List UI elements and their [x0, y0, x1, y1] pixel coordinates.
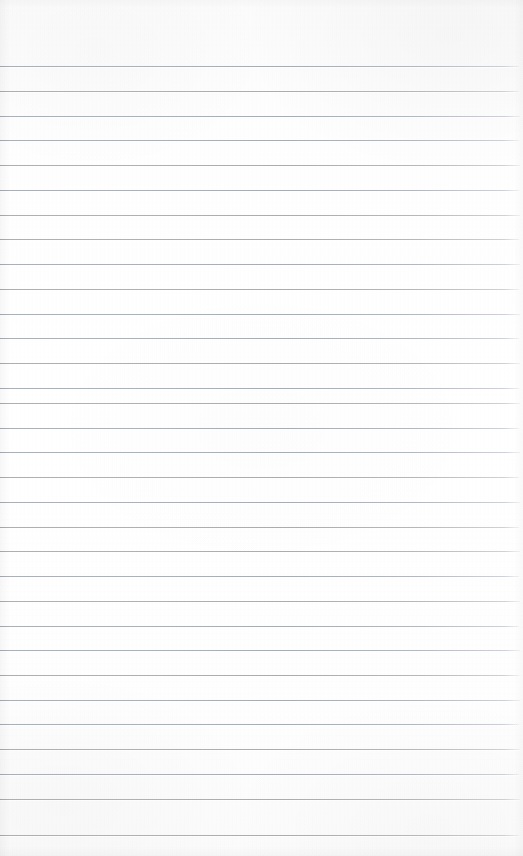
lined-paper-sheet	[0, 0, 523, 856]
writing-area[interactable]	[0, 0, 523, 856]
